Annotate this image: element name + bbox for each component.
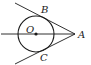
geometry-diagram: O A B C [0, 0, 91, 65]
label-a: A [77, 29, 85, 40]
center-point [34, 32, 37, 35]
label-b: B [40, 4, 48, 15]
label-o: O [26, 24, 34, 35]
label-c: C [40, 52, 48, 63]
